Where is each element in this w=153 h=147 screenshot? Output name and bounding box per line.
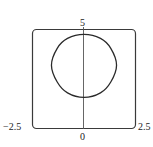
y-tick-bottom-label: 0: [80, 132, 85, 142]
curve-series: [51, 34, 116, 97]
x-tick-left-label: −2.5: [3, 122, 21, 132]
y-tick-top-label: 5: [80, 18, 85, 28]
chart-canvas: [0, 0, 153, 147]
x-tick-right-label: 2.5: [138, 122, 151, 132]
plot-frame: [33, 30, 136, 129]
